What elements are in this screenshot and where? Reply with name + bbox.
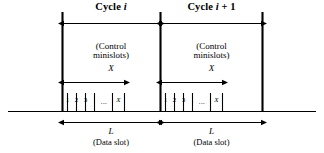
cycle-title-1: Cycle i — [62, 1, 160, 12]
data-symbol-2: L — [160, 127, 263, 136]
minislot-label-2-last: X — [211, 97, 222, 104]
minislot-label-1-last: X — [113, 97, 124, 104]
minislot-label-2-3: 3 — [179, 97, 188, 104]
cycle-title-2-prefix: Cycle — [187, 1, 215, 12]
data-slot-label-2: (Data slot) — [160, 138, 263, 147]
minislot-label-1-2: 2 — [72, 97, 81, 104]
timing-diagram: Cycle i (Control minislots) X 1 2 3 ... … — [0, 0, 324, 153]
cycle-title-1-prefix: Cycle — [95, 1, 123, 12]
minislot-label-2-2: 2 — [170, 97, 179, 104]
control-minislots-label-1-line2: minislots) — [93, 50, 129, 60]
control-minislots-label-1: (Control minislots) — [62, 42, 160, 61]
cycle-title-2-suffix: + 1 — [219, 1, 236, 12]
control-minislots-label-2-line2: minislots) — [193, 50, 229, 60]
cycle-title-1-symbol: i — [124, 1, 127, 12]
minislot-ellipsis-1: ... — [98, 98, 110, 106]
data-slot-label-1: (Data slot) — [62, 138, 160, 147]
control-symbol-1: X — [62, 64, 160, 73]
minislot-label-1-1: 1 — [63, 97, 72, 104]
minislot-label-2-1: 1 — [161, 97, 170, 104]
data-symbol-1: L — [62, 127, 160, 136]
control-symbol-2: X — [160, 64, 263, 73]
minislot-label-1-3: 3 — [81, 97, 90, 104]
cycle-title-2: Cycle i + 1 — [160, 1, 263, 12]
control-minislots-label-2: (Control minislots) — [160, 42, 263, 61]
minislot-ellipsis-2: ... — [196, 98, 208, 106]
